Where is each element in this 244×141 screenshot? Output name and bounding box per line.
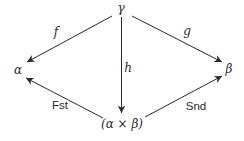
commutative-diagram: γ α β (α × β) f g h Fst Snd: [0, 0, 244, 141]
node-beta: β: [226, 63, 233, 75]
node-gamma: γ: [117, 2, 124, 14]
edge-fst-arrow: [26, 78, 103, 118]
node-product: (α × β): [101, 118, 143, 130]
edge-snd-arrow: [145, 76, 222, 117]
edge-label-fst: Fst: [52, 100, 68, 112]
edge-label-h: h: [124, 62, 132, 74]
edge-label-f: f: [54, 26, 58, 38]
edge-label-g: g: [183, 25, 191, 37]
edge-label-snd: Snd: [186, 101, 206, 113]
node-alpha: α: [14, 64, 22, 76]
edge-f-arrow: [27, 16, 112, 62]
edge-g-arrow: [132, 16, 222, 62]
